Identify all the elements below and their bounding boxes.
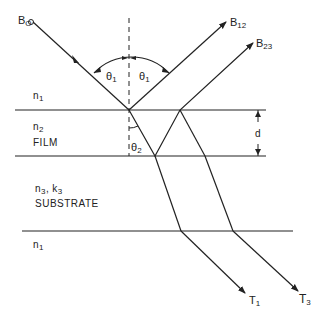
label-n1-bottom: n1 [33, 239, 44, 252]
transmitted-ray-t1 [181, 231, 245, 293]
arc-arrow-left-icon [94, 67, 101, 73]
thin-film-diagram: BO B12 B23 θ1 θ1 θ2 n1 n2 FILM n3,k3 SUB… [0, 0, 328, 322]
label-film: FILM [33, 137, 58, 148]
label-n3-k3: n3,k3 [35, 183, 63, 196]
label-theta2: θ2 [131, 141, 142, 155]
label-t1: T1 [249, 294, 261, 308]
label-theta1-right: θ1 [139, 70, 150, 84]
transmitted-ray-t3 [233, 231, 298, 291]
reflected-ray-b12 [129, 22, 226, 110]
arc-arrow-right-icon [162, 67, 169, 73]
substrate-ray-2 [205, 156, 233, 231]
label-theta1-left: θ1 [106, 70, 117, 84]
label-b12: B12 [230, 16, 247, 30]
substrate-ray-1 [155, 156, 181, 231]
label-d: d [255, 128, 261, 139]
label-n1-top: n1 [33, 90, 44, 103]
label-n2: n2 [33, 121, 44, 134]
theta2-arc [129, 126, 138, 128]
film-ray-down-2 [180, 110, 205, 156]
thickness-arrow-top-icon [255, 111, 261, 117]
incident-ray [33, 22, 129, 110]
label-t3: T3 [299, 292, 311, 307]
arc-arrow-top-left-icon [122, 56, 128, 60]
label-b23: B23 [256, 37, 273, 51]
incident-arrow-icon [72, 55, 79, 63]
label-b0: BO [18, 14, 32, 28]
label-substrate: SUBSTRATE [35, 198, 99, 209]
thickness-arrow-bottom-icon [255, 149, 261, 155]
